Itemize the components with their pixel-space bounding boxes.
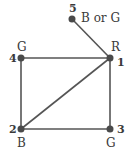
node-2-color: B xyxy=(17,136,26,150)
node-3-color: G xyxy=(106,136,116,150)
node-3 xyxy=(107,126,114,133)
edge-2-1 xyxy=(21,58,110,129)
node-5-number: 5 xyxy=(69,2,77,15)
node-5 xyxy=(69,16,76,23)
node-4 xyxy=(18,55,25,62)
node-2-number: 2 xyxy=(9,123,17,136)
node-1-color: R xyxy=(111,40,121,54)
node-4-number: 4 xyxy=(9,52,17,65)
node-1-number: 1 xyxy=(117,56,125,69)
node-2 xyxy=(18,126,25,133)
node-3-number: 3 xyxy=(117,123,125,136)
node-4-color: G xyxy=(17,40,27,54)
node-1 xyxy=(107,55,114,62)
node-5-color: B or G xyxy=(81,11,120,25)
graph-diagram: 5 B or G 4 G 1 R 2 B 3 G xyxy=(0,0,130,152)
